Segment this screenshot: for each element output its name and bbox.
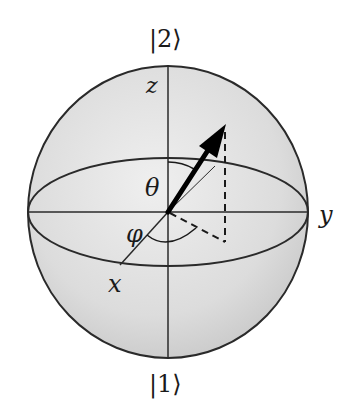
phi-label: φ [126, 220, 143, 248]
z-axis-label: z [145, 73, 158, 98]
top-state-label: |2⟩ [149, 25, 182, 54]
bloch-sphere-diagram: |2⟩ |1⟩ z y x θ φ [0, 0, 353, 419]
theta-label: θ [145, 174, 160, 202]
x-axis-label: x [108, 270, 122, 298]
bottom-state-label: |1⟩ [149, 370, 182, 399]
y-axis-label: y [318, 201, 333, 229]
